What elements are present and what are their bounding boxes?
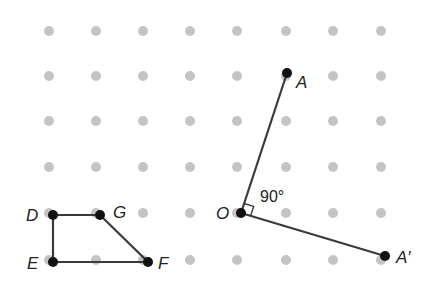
grid-dot bbox=[281, 255, 291, 265]
segment-oa-prime bbox=[241, 213, 385, 256]
label-o: O bbox=[216, 205, 229, 222]
label-d: D bbox=[26, 207, 38, 224]
grid-dot bbox=[44, 26, 54, 36]
label-a: A bbox=[296, 74, 307, 91]
grid-dot bbox=[376, 162, 386, 172]
grid-dot bbox=[328, 162, 338, 172]
grid-dot bbox=[44, 71, 54, 81]
grid-dot bbox=[91, 162, 101, 172]
grid-dot bbox=[138, 71, 148, 81]
grid-dot bbox=[376, 208, 386, 218]
label-g: G bbox=[113, 204, 126, 221]
point-a-prime bbox=[380, 251, 390, 261]
grid-dots bbox=[44, 26, 386, 265]
grid-dot bbox=[328, 71, 338, 81]
grid-dot bbox=[281, 26, 291, 36]
point-e bbox=[48, 257, 58, 267]
grid-dot bbox=[138, 208, 148, 218]
grid-dot bbox=[91, 71, 101, 81]
grid-dot bbox=[328, 26, 338, 36]
grid-dot bbox=[232, 71, 242, 81]
grid-dot bbox=[281, 116, 291, 126]
grid-dot bbox=[44, 162, 54, 172]
grid-dot bbox=[185, 208, 195, 218]
grid-dot bbox=[91, 116, 101, 126]
label-f: F bbox=[158, 255, 168, 272]
grid-dot bbox=[232, 26, 242, 36]
grid-dot bbox=[281, 208, 291, 218]
grid-dot bbox=[138, 116, 148, 126]
grid-dot bbox=[185, 255, 195, 265]
point-f bbox=[143, 257, 153, 267]
rotation-segments bbox=[241, 73, 385, 256]
point-d bbox=[48, 210, 58, 220]
grid-dot bbox=[328, 208, 338, 218]
point-a bbox=[282, 68, 292, 78]
grid-dot bbox=[281, 162, 291, 172]
grid-dot bbox=[232, 162, 242, 172]
label-e: E bbox=[27, 255, 38, 272]
grid-dot bbox=[376, 71, 386, 81]
grid-dot bbox=[91, 255, 101, 265]
grid-dot bbox=[328, 255, 338, 265]
label-a-prime: A′ bbox=[396, 249, 411, 266]
grid-dot bbox=[232, 116, 242, 126]
point-o bbox=[236, 208, 246, 218]
grid-dot bbox=[232, 255, 242, 265]
quadrilateral-dgfe bbox=[53, 215, 148, 262]
grid-dot bbox=[376, 116, 386, 126]
grid-dot bbox=[44, 116, 54, 126]
angle-label: 90° bbox=[260, 189, 284, 205]
grid-dot bbox=[185, 116, 195, 126]
grid-dot bbox=[138, 26, 148, 36]
grid-dot bbox=[376, 26, 386, 36]
grid-dot bbox=[328, 116, 338, 126]
grid-dot bbox=[185, 71, 195, 81]
grid-dot bbox=[185, 26, 195, 36]
grid-dot bbox=[91, 26, 101, 36]
grid-dot bbox=[138, 162, 148, 172]
dot-grid-diagram bbox=[0, 0, 440, 290]
point-g bbox=[95, 210, 105, 220]
grid-dot bbox=[185, 162, 195, 172]
